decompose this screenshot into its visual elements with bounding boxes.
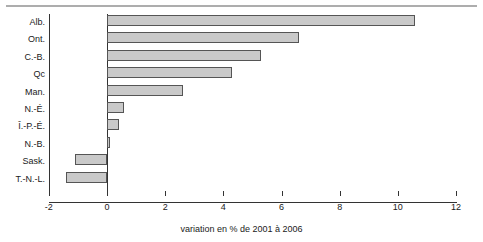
tick-label: 8 bbox=[337, 202, 342, 212]
tick-label: 12 bbox=[451, 202, 461, 212]
bar bbox=[107, 137, 110, 148]
tick-mark bbox=[107, 191, 108, 196]
tick-mark bbox=[456, 191, 457, 196]
tick-mark bbox=[340, 191, 341, 196]
tick-label: -2 bbox=[45, 202, 53, 212]
bar bbox=[107, 15, 415, 26]
tick-label: 6 bbox=[279, 202, 284, 212]
tick-label: 0 bbox=[104, 202, 109, 212]
bar bbox=[75, 154, 107, 165]
top-divider-rule bbox=[6, 5, 477, 7]
tick-mark bbox=[223, 191, 224, 196]
tick-label: 2 bbox=[163, 202, 168, 212]
bar-chart: Alb.Ont.C.-B.QcMan.N.-É.Î.-P.-É.N.-B.Sas… bbox=[0, 0, 483, 242]
bar bbox=[66, 172, 107, 183]
x-axis-ticks: -2024681012 bbox=[0, 202, 483, 216]
bar-series bbox=[0, 12, 483, 190]
bar bbox=[107, 67, 232, 78]
bar bbox=[107, 119, 119, 130]
tick-label: 4 bbox=[221, 202, 226, 212]
bar bbox=[107, 50, 261, 61]
bar bbox=[107, 32, 299, 43]
tick-mark bbox=[165, 191, 166, 196]
tick-label: 10 bbox=[393, 202, 403, 212]
tick-mark bbox=[398, 191, 399, 196]
bar bbox=[107, 85, 183, 96]
tick-mark bbox=[282, 191, 283, 196]
bar bbox=[107, 102, 124, 113]
tick-mark bbox=[49, 191, 50, 196]
x-axis-caption: variation en % de 2001 à 2006 bbox=[0, 224, 483, 235]
